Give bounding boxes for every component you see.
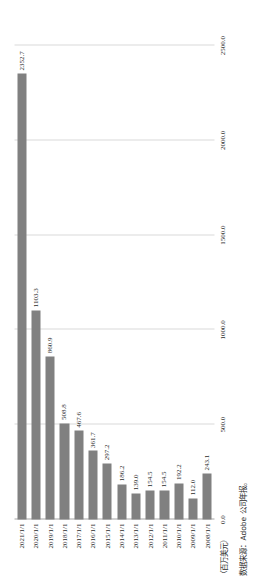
category-axis-tick-label: 2013/1/1 (128, 523, 142, 575)
category-axis-tick-label: 2010/1/1 (171, 523, 185, 575)
bar-value-label: 2352.7 (14, 51, 28, 70)
gridline (14, 139, 214, 140)
bar-value-label: 186.2 (114, 465, 128, 481)
bar (159, 490, 168, 519)
value-axis-unit-label: （百万美元） (217, 535, 228, 577)
bar (59, 423, 68, 519)
category-axis-tick-label: 2016/1/1 (85, 523, 99, 575)
bar-value-label: 154.5 (156, 471, 170, 487)
bar (188, 498, 197, 519)
bar (45, 356, 54, 519)
bar-value-label: 1103.3 (28, 288, 42, 307)
bar (17, 73, 26, 519)
bar-chart-figure: 243.1112.0192.2154.5154.5139.0186.2297.2… (0, 0, 267, 581)
value-axis-tick-label: 500.0 (218, 416, 226, 432)
bar (31, 310, 40, 519)
category-axis-tick-label: 2021/1/1 (14, 523, 28, 575)
bar-value-label: 192.2 (171, 464, 185, 480)
bar-value-label: 508.8 (56, 404, 70, 420)
bar (88, 450, 97, 519)
category-axis-tick-label: 2017/1/1 (71, 523, 85, 575)
bar-value-label: 860.9 (42, 337, 56, 353)
category-axis-tick-label: 2011/1/1 (157, 523, 171, 575)
category-axis-tick-label: 2012/1/1 (143, 523, 157, 575)
plot-area: 243.1112.0192.2154.5154.5139.0186.2297.2… (14, 45, 214, 519)
category-axis-tick-label: 2019/1/1 (43, 523, 57, 575)
chart-rotation-wrapper: 243.1112.0192.2154.5154.5139.0186.2297.2… (0, 0, 267, 581)
gridline (14, 234, 214, 235)
bar-value-label: 243.1 (199, 454, 213, 470)
bar-value-label: 139.0 (128, 474, 142, 490)
category-axis-tick-label: 2020/1/1 (28, 523, 42, 575)
value-axis-tick-label: 2500.0 (218, 35, 226, 54)
category-axis-tick-label: 2015/1/1 (100, 523, 114, 575)
bar-value-label: 297.2 (99, 444, 113, 460)
bar (102, 463, 111, 519)
bar (74, 430, 83, 519)
category-axis-tick-label: 2014/1/1 (114, 523, 128, 575)
category-axis-tick-label: 2009/1/1 (185, 523, 199, 575)
bar (202, 473, 211, 519)
bar (131, 493, 140, 519)
bar (174, 483, 183, 519)
source-note: 数据来源：Adobe 公司年报。 (236, 479, 247, 575)
bar (117, 484, 126, 519)
bar-value-label: 112.0 (185, 479, 199, 495)
gridline (14, 423, 214, 424)
bar-value-label: 361.7 (85, 432, 99, 448)
bar-value-label: 467.6 (71, 412, 85, 428)
bar-value-label: 154.5 (142, 471, 156, 487)
bar (145, 490, 154, 519)
category-axis-tick-label: 2008/1/1 (200, 523, 214, 575)
gridline (14, 328, 214, 329)
category-axis-line (14, 518, 214, 519)
category-axis-tick-label: 2018/1/1 (57, 523, 71, 575)
gridline (14, 44, 214, 45)
value-axis-tick-label: 2000.0 (218, 130, 226, 149)
value-axis-tick-label: 1000.0 (218, 320, 226, 339)
value-axis-tick-label: 1500.0 (218, 225, 226, 244)
value-axis-tick-label: 0.0 (218, 515, 226, 524)
